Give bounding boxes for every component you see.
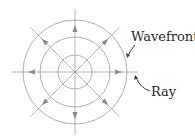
arrowhead-icon — [28, 69, 35, 74]
arrowhead-icon — [72, 112, 77, 119]
ray-135 — [31, 28, 76, 73]
wavefront-callout-arrow-icon — [128, 45, 135, 56]
ray-label: Ray — [151, 84, 177, 99]
ray-315 — [75, 72, 120, 117]
wavefront-label: Wavefront — [131, 29, 195, 44]
arrowhead-icon — [115, 69, 122, 74]
ray-callout-arrow-icon — [136, 77, 150, 91]
wave-diagram: Wavefront Ray — [0, 0, 195, 139]
ray-45 — [75, 28, 120, 73]
ray-225 — [31, 72, 76, 117]
arrowhead-icon — [72, 25, 77, 32]
